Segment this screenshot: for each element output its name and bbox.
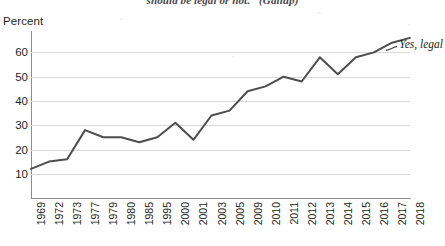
chart-figure: should be legal or not." (Gallup) Percen… — [0, 0, 445, 246]
x-tick-label: 1972 — [53, 202, 65, 225]
x-tick-label: 2001 — [197, 202, 209, 225]
x-axis-line — [31, 198, 411, 199]
y-tick-label: 20 — [2, 144, 28, 156]
x-tick-label: 1973 — [71, 202, 83, 225]
x-tick-label: 2017 — [396, 202, 408, 225]
series-line-yes-legal — [31, 33, 410, 198]
x-tick-label: 1979 — [107, 202, 119, 225]
y-tick-label: 60 — [2, 46, 28, 58]
x-tick-label: 2016 — [378, 202, 390, 225]
x-tick-label: 2003 — [216, 202, 228, 225]
x-tick-label: 2000 — [179, 202, 191, 225]
y-tick-label: 40 — [2, 95, 28, 107]
y-axis-unit-label: Percent — [3, 15, 43, 27]
plot-area — [31, 33, 410, 198]
x-tick-label: 2013 — [324, 202, 336, 225]
x-tick-label: 1977 — [89, 202, 101, 225]
x-tick-label: 2018 — [414, 202, 426, 225]
x-tick-label: 2015 — [360, 202, 372, 225]
y-tick-label: 10 — [2, 168, 28, 180]
y-tick-label: 50 — [2, 71, 28, 83]
x-tick-label: 1995 — [161, 202, 173, 225]
x-tick-label: 1969 — [35, 202, 47, 225]
x-tick-label: 1980 — [125, 202, 137, 225]
x-tick-label: 2011 — [288, 202, 300, 225]
annotation-leader-line — [386, 46, 397, 51]
x-tick-label: 2009 — [252, 202, 264, 225]
x-axis-tick-labels: 1969197219731977197919801985199520002001… — [31, 202, 410, 246]
x-tick-label: 2012 — [306, 202, 318, 225]
x-tick-label: 2010 — [270, 202, 282, 225]
x-tick-label: 1985 — [143, 202, 155, 225]
chart-title-fragment: should be legal or not." (Gallup) — [0, 0, 445, 6]
y-tick-label: 30 — [2, 119, 28, 131]
x-tick-label: 2014 — [342, 202, 354, 225]
y-axis-tick-labels: 102030405060 — [0, 33, 28, 198]
x-tick-label: 2005 — [234, 202, 246, 225]
series-label-yes-legal: Yes, legal — [399, 38, 443, 50]
